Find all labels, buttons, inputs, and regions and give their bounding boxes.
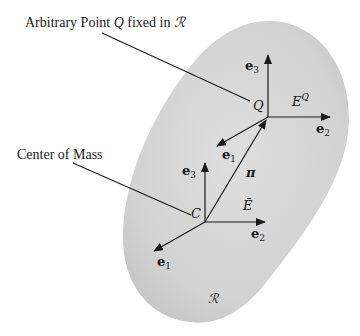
rigid-body-region [123, 21, 349, 323]
rigid-body-diagram: Arbitrary Point Q fixed in ℛ Center of M… [0, 0, 360, 336]
q-origin-label: Q [253, 98, 264, 113]
caption-center-of-mass: Center of Mass [17, 147, 103, 162]
caption-point-q: Arbitrary Point Q fixed in ℛ [25, 15, 186, 30]
c-origin-label: C [191, 206, 201, 221]
frame-ebar-label: Ē [242, 198, 253, 213]
pi-label: π [245, 165, 256, 180]
